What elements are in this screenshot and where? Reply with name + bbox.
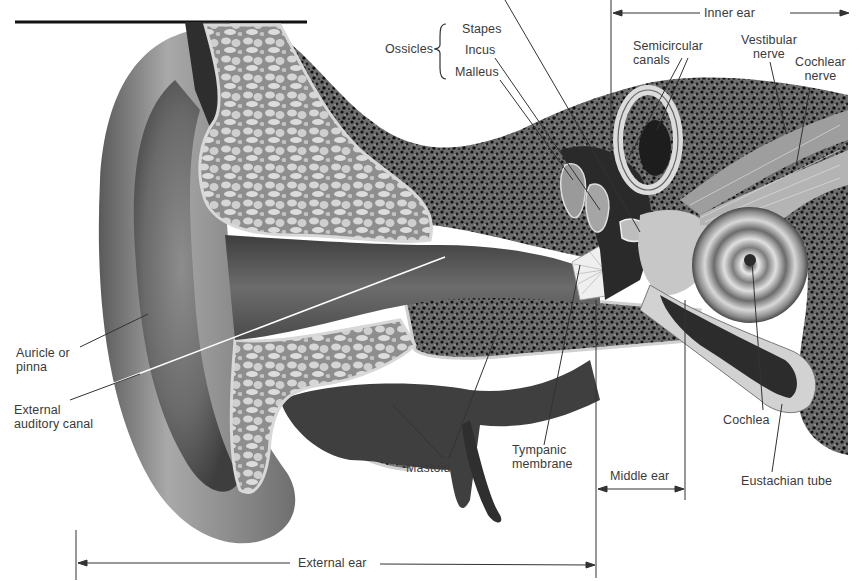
label-auricle: Auricle or pinna — [16, 346, 70, 374]
ossicles-brace — [434, 24, 446, 79]
ear-anatomy-diagram: Ossicles Stapes Incus Malleus Semicircul… — [0, 0, 858, 581]
ear-illustration — [0, 0, 858, 581]
region-middle-ear: Middle ear — [610, 469, 669, 483]
label-mastoid: Mastoid — [406, 461, 450, 475]
region-external-ear: External ear — [298, 556, 367, 570]
label-vestibular-nerve: Vestibular nerve — [741, 33, 797, 61]
label-semicircular-canals: Semicircular canals — [633, 39, 703, 67]
region-inner-ear: Inner ear — [704, 6, 755, 20]
label-cochlea: Cochlea — [723, 413, 770, 427]
label-incus: Incus — [465, 43, 495, 57]
label-malleus: Malleus — [455, 65, 499, 79]
incus — [586, 184, 609, 232]
label-external-auditory-canal: External auditory canal — [14, 403, 93, 431]
cartilage-upper — [200, 25, 432, 241]
label-ossicles: Ossicles — [385, 42, 433, 56]
label-eustachian-tube: Eustachian tube — [741, 474, 832, 488]
label-cochlear-nerve: Cochlear nerve — [795, 55, 846, 83]
label-stapes: Stapes — [462, 22, 502, 36]
label-tympanic-membrane: Tympanic membrane — [512, 443, 573, 471]
